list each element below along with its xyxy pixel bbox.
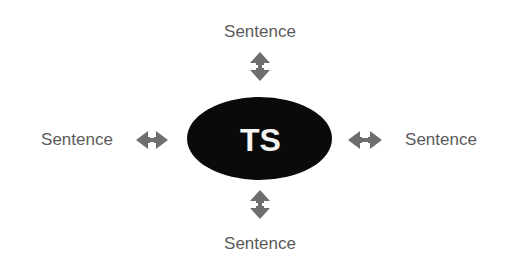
double-arrow-vertical-icon <box>250 190 270 219</box>
sentence-node-left: Sentence <box>32 130 122 150</box>
topic-sentence-node: TS <box>187 97 332 180</box>
double-arrow-horizontal-icon <box>348 131 382 149</box>
sentence-node-bottom: Sentence <box>215 234 305 254</box>
double-arrow-vertical-icon <box>250 52 270 81</box>
sentence-node-top: Sentence <box>215 22 305 42</box>
double-arrow-horizontal-icon <box>136 131 168 149</box>
sentence-node-right: Sentence <box>396 130 486 150</box>
topic-sentence-label: TS <box>240 124 281 156</box>
